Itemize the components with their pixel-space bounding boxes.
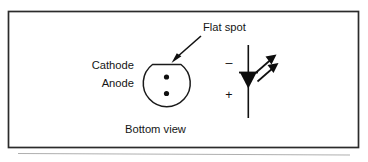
polarity-plus-label: + — [225, 88, 232, 102]
anode-label: Anode — [102, 77, 134, 89]
anode-lead-dot — [164, 91, 169, 96]
cathode-label: Cathode — [92, 59, 134, 71]
bottom-view-label: Bottom view — [125, 123, 187, 135]
cathode-lead-dot — [164, 74, 169, 79]
led-body-outline — [143, 65, 190, 107]
page-edge-artifact — [18, 154, 350, 156]
figure-root: Flat spot Cathode Anode Bottom view – + — [0, 0, 368, 162]
polarity-minus-label: – — [226, 56, 233, 70]
led-diagram-canvas: Flat spot Cathode Anode Bottom view – + — [0, 0, 368, 162]
flat-spot-label: Flat spot — [203, 21, 247, 33]
